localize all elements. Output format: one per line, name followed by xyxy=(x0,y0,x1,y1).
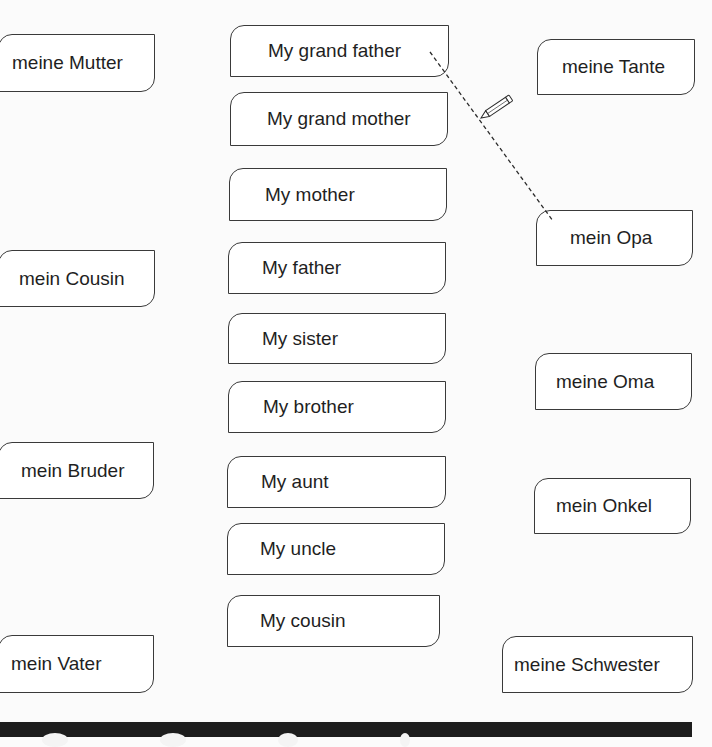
match-box-my-uncle[interactable]: My uncle xyxy=(227,523,445,575)
match-box-meine-schwester[interactable]: meine Schwester xyxy=(502,636,693,693)
match-label: meine Schwester xyxy=(514,654,660,676)
match-label: mein Onkel xyxy=(556,495,652,517)
dashed-connector-line xyxy=(430,52,553,221)
match-box-meine-tante[interactable]: meine Tante xyxy=(537,39,695,95)
match-box-mein-onkel[interactable]: mein Onkel xyxy=(534,478,691,534)
footer-band xyxy=(0,722,692,737)
match-label: My sister xyxy=(262,328,338,350)
footer-shape xyxy=(400,733,410,747)
match-box-meine-mutter[interactable]: meine Mutter xyxy=(0,34,155,92)
match-box-my-brother[interactable]: My brother xyxy=(228,381,446,433)
match-label: My cousin xyxy=(260,610,346,632)
match-label: mein Cousin xyxy=(19,268,125,290)
match-box-my-sister[interactable]: My sister xyxy=(228,313,446,364)
match-label: My aunt xyxy=(261,471,329,493)
match-box-mein-bruder[interactable]: mein Bruder xyxy=(0,442,154,499)
match-label: My brother xyxy=(263,396,354,418)
match-label: meine Tante xyxy=(562,56,665,78)
footer-shape xyxy=(42,733,68,747)
match-box-mein-vater[interactable]: mein Vater xyxy=(0,635,154,693)
match-box-mein-cousin[interactable]: mein Cousin xyxy=(0,250,155,307)
match-box-my-aunt[interactable]: My aunt xyxy=(227,456,446,508)
match-box-my-grand-father[interactable]: My grand father xyxy=(230,25,449,77)
match-box-my-mother[interactable]: My mother xyxy=(229,168,447,221)
match-label: mein Opa xyxy=(570,227,652,249)
match-box-my-cousin[interactable]: My cousin xyxy=(227,595,440,647)
match-label: mein Bruder xyxy=(21,460,125,482)
match-box-my-grand-mother[interactable]: My grand mother xyxy=(230,92,448,146)
match-label: My mother xyxy=(265,184,355,206)
match-label: My grand mother xyxy=(267,108,411,130)
match-label: meine Oma xyxy=(556,371,654,393)
footer-shape xyxy=(278,733,298,747)
match-label: mein Vater xyxy=(11,653,101,675)
footer-shape xyxy=(160,733,186,747)
pencil-icon xyxy=(479,95,513,121)
match-label: My father xyxy=(262,257,341,279)
match-box-my-father[interactable]: My father xyxy=(228,242,446,294)
match-label: My uncle xyxy=(260,538,336,560)
match-box-meine-oma[interactable]: meine Oma xyxy=(535,353,692,410)
match-label: meine Mutter xyxy=(12,52,123,74)
match-box-mein-opa[interactable]: mein Opa xyxy=(536,210,693,266)
match-label: My grand father xyxy=(268,40,401,62)
